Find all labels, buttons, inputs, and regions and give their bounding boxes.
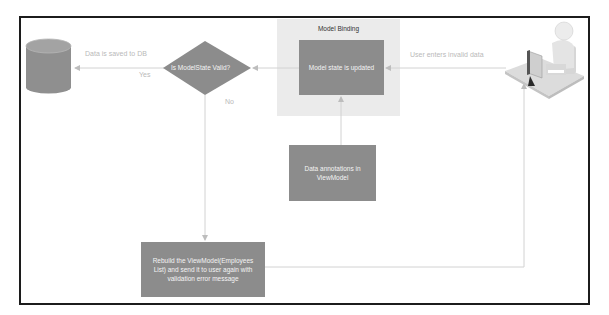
user-at-computer-icon (505, 22, 584, 99)
diagram-graphics (0, 0, 609, 315)
edge-label-yes: Yes (139, 71, 150, 78)
edge-rebuild-to-user (265, 84, 524, 267)
database-icon (26, 39, 71, 94)
edge-label-user-enters-invalid-data: User enters invalid data (410, 51, 484, 58)
edge-label-data-saved: Data is saved to DB (85, 50, 147, 57)
decision-label: Is ModelState Valid? (171, 64, 230, 71)
edge-label-no: No (225, 98, 234, 105)
